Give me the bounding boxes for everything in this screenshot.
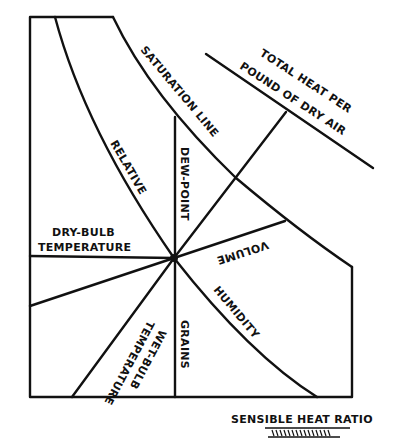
hatch-icon	[268, 430, 340, 437]
enthalpy-scale-line	[30, 258, 174, 306]
dry-bulb-label-1: DRY-BULB	[52, 226, 115, 239]
grains-label: GRAINS	[178, 320, 191, 369]
sensible-heat-ratio-label: SENSIBLE HEAT RATIO	[231, 413, 373, 426]
saturation-line-label: SATURATION LINE	[138, 44, 222, 140]
psychrometric-diagram: SATURATION LINE TOTAL HEAT PER POUND OF …	[0, 0, 398, 441]
dry-bulb-line	[30, 256, 174, 258]
dry-bulb-label-2: TEMPERATURE	[38, 241, 131, 254]
dew-point-label: DEW-POINT	[178, 147, 191, 221]
center-point	[170, 254, 178, 262]
